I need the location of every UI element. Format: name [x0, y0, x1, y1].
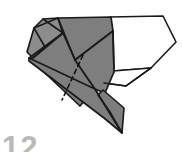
- origami-diagram-figure: 12: [0, 0, 182, 152]
- crease-panel-divider: [113, 31, 114, 72]
- step-number-label: 12: [2, 132, 38, 152]
